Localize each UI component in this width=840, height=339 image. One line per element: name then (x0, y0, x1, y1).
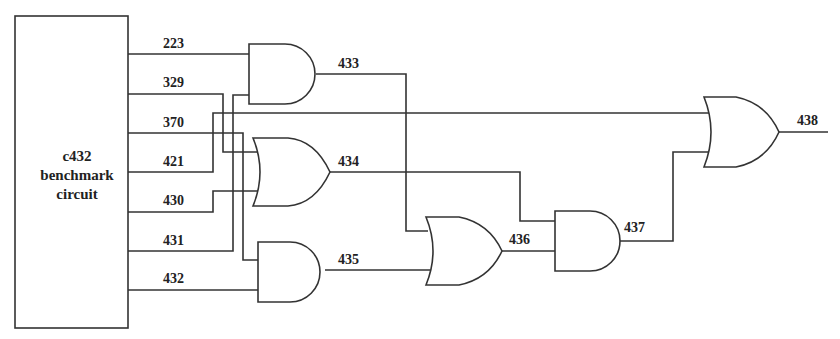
signal-label-421: 421 (163, 154, 184, 169)
wire-431: 431 (128, 95, 249, 251)
signal-label-431: 431 (163, 233, 184, 248)
wire-432: 432 (128, 271, 259, 290)
signal-label-436: 436 (509, 232, 530, 247)
wire-370: 370 (128, 115, 259, 260)
signal-label-430: 430 (163, 193, 184, 208)
and-gate-435: 435 (258, 242, 430, 302)
signal-label-223: 223 (163, 36, 184, 51)
logic-circuit-diagram: c432 benchmark circuit 223 329 370 421 4… (0, 0, 840, 339)
signal-label-434: 434 (338, 154, 359, 169)
signal-label-437: 437 (624, 220, 645, 235)
signal-label-329: 329 (163, 75, 184, 90)
wire-421: 421 (128, 113, 711, 172)
c432-benchmark-block: c432 benchmark circuit (15, 16, 128, 328)
wire-430: 430 (128, 191, 258, 212)
signal-label-432: 432 (163, 271, 184, 286)
and-gate-437: 437 (555, 152, 711, 271)
block-label-line2: benchmark (40, 167, 114, 183)
signal-label-435: 435 (338, 252, 359, 267)
or-gate-438: 438 (704, 97, 828, 167)
wire-223: 223 (128, 36, 249, 54)
block-label-line1: c432 (62, 148, 91, 164)
or-gate-436: 436 (426, 217, 555, 285)
block-label-line3: circuit (56, 186, 97, 202)
signal-label-438: 438 (797, 113, 818, 128)
signal-label-433: 433 (338, 56, 359, 71)
or-gate-434: 434 (253, 138, 555, 221)
signal-label-370: 370 (163, 115, 184, 130)
